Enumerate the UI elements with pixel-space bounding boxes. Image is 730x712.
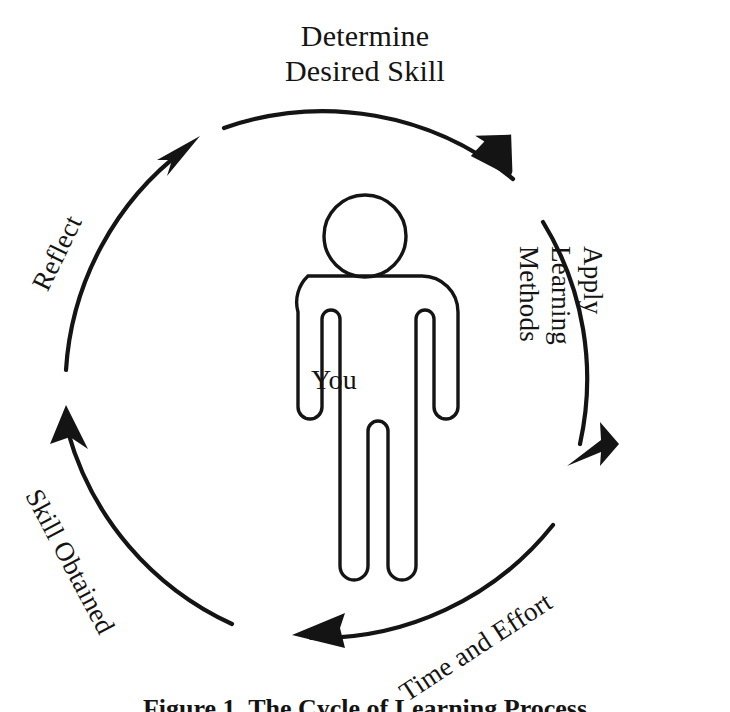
stage-label-determine-desired-skill: Determine Desired Skill — [0, 18, 730, 89]
arc-reflect-to-determine — [66, 149, 185, 370]
figure-caption: Figure 1. The Cycle of Learning Process — [0, 694, 730, 712]
stage-label-line2: Desired Skill — [0, 53, 730, 88]
stage-label-line1: Apply — [576, 246, 608, 345]
arc-determine-to-apply — [224, 111, 513, 179]
arrowhead-to-time-effort — [567, 422, 619, 466]
diagram-canvas: Determine Desired Skill Apply Learning M… — [0, 0, 730, 712]
stage-label-line3: Methods — [512, 246, 544, 345]
arrowhead-to-apply — [470, 135, 512, 178]
stage-label-line2: Learning — [544, 246, 576, 345]
person-body-icon — [297, 276, 458, 580]
person-head-icon — [324, 195, 406, 277]
arrowhead-to-determine — [157, 136, 200, 176]
arrowhead-to-skill-obtained — [292, 613, 345, 648]
person-center-label: You — [311, 363, 357, 396]
stage-label-line1: Determine — [0, 18, 730, 53]
stage-label-apply-learning-methods: Apply Learning Methods — [512, 246, 608, 345]
